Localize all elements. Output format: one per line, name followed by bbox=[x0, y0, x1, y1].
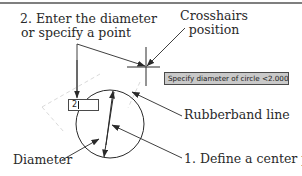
text-caret bbox=[78, 101, 79, 109]
callout-crosshairs-line1: Crosshairs bbox=[178, 9, 250, 23]
circle-diameter-diagram: 2. Enter the diameter or specify a point… bbox=[0, 0, 302, 176]
callout-step1: 1. Define a center point bbox=[184, 152, 302, 166]
crosshairs-icon bbox=[127, 47, 160, 86]
callout-diameter: Diameter bbox=[13, 153, 72, 167]
callout-step2: 2. Enter the diameter or specify a point bbox=[20, 12, 132, 40]
prompt-text: Specify diameter of circle <2.0000>: bbox=[168, 74, 289, 83]
callout-step2-line1: 2. Enter the diameter bbox=[20, 12, 132, 26]
diameter-line-top bbox=[106, 91, 113, 145]
dynamic-input-value: 2 bbox=[72, 100, 77, 109]
callout-crosshairs-line2: position bbox=[178, 23, 250, 37]
callout-crosshairs: Crosshairs position bbox=[178, 9, 250, 37]
leader-center bbox=[112, 125, 182, 158]
callout-rubberband: Rubberband line bbox=[184, 108, 290, 122]
leader-step2 bbox=[77, 44, 145, 97]
leader-rubberband bbox=[132, 92, 182, 116]
command-prompt-tooltip: Specify diameter of circle <2.0000>: bbox=[164, 72, 289, 85]
dynamic-input-field[interactable]: 2 bbox=[68, 99, 99, 111]
callout-step2-line2: or specify a point bbox=[20, 26, 132, 40]
